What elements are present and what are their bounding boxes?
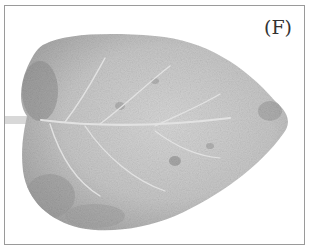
figure-frame: (F) [4, 5, 305, 245]
leaf-image [5, 6, 304, 244]
panel-label: (F) [264, 16, 292, 38]
